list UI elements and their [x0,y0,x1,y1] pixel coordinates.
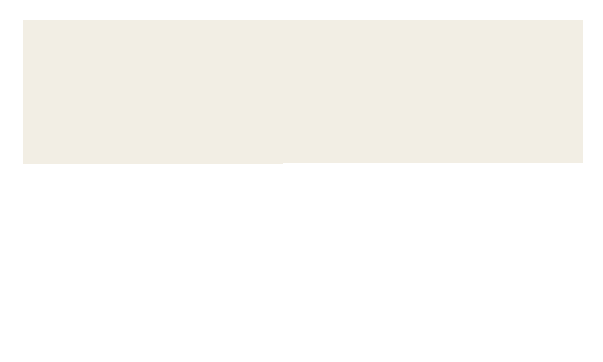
diagram-graphics [0,0,603,362]
cellular-respiration-diagram [0,0,603,362]
